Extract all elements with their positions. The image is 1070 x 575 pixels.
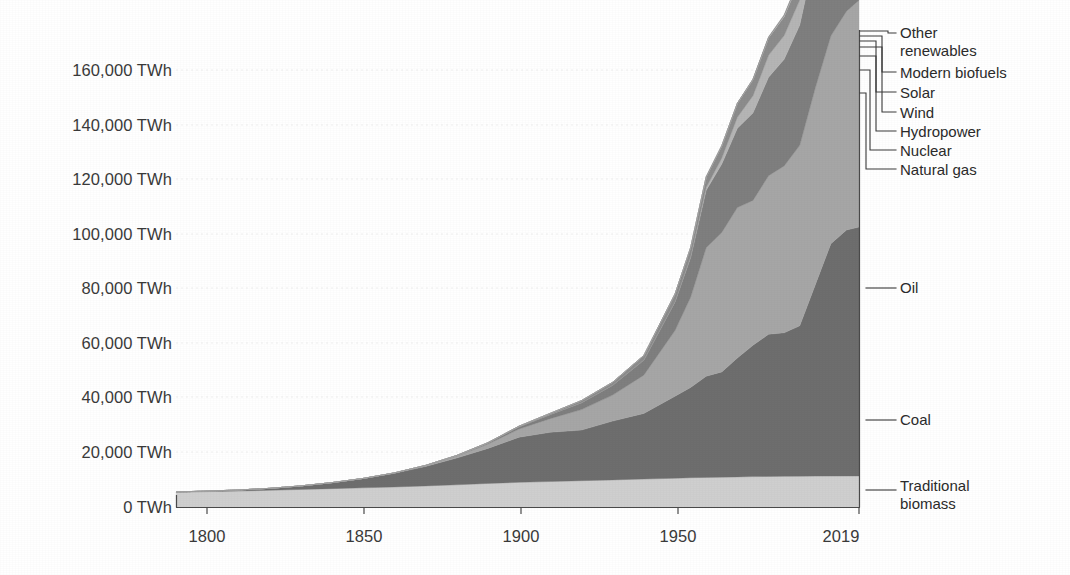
leader-solar [860,41,896,92]
leader-nuclear [860,70,896,150]
x-axis-ticks [207,508,859,515]
chart-container: 160,000 TWh 140,000 TWh 120,000 TWh 100,… [0,0,1070,575]
legend-leader-lines [860,31,896,490]
leader-wind [860,47,896,112]
stacked-area-plot [0,0,1070,575]
leader-other-renewables [860,31,896,33]
area-series-group [176,0,859,508]
